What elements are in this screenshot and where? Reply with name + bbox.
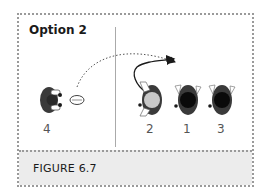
player-label-4: 4 [43, 122, 51, 136]
figure-caption: FIGURE 6.7 [33, 162, 97, 175]
player-1-icon [174, 85, 201, 115]
pass-line-icon [77, 54, 175, 87]
caption-bar: FIGURE 6.7 [19, 150, 252, 185]
player-4-icon [40, 87, 62, 113]
player-label-3: 3 [217, 122, 225, 136]
rugby-ball-icon [70, 96, 84, 105]
player-2-icon [138, 82, 162, 116]
diagram-panel: Option 2 [19, 15, 252, 150]
player-label-1: 1 [183, 122, 191, 136]
player-label-2: 2 [146, 122, 154, 136]
player-3-icon [208, 85, 235, 115]
figure-frame: Option 2 [17, 13, 254, 187]
